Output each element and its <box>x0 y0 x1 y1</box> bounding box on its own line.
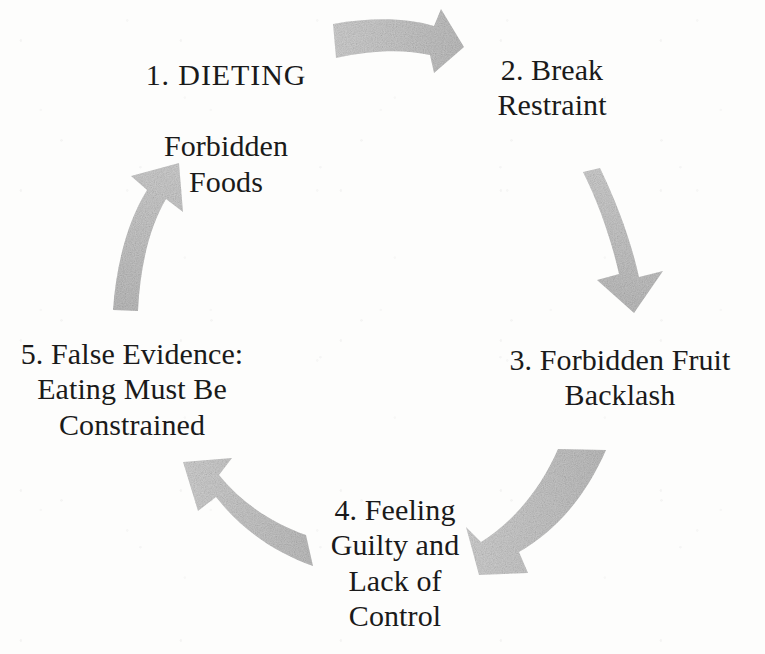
cycle-node-2-break-restraint: 2. Break Restraint <box>452 52 652 123</box>
cycle-node-5-false-evidence: 5. False Evidence: Eating Must Be Constr… <box>8 336 256 442</box>
cycle-node-1-heading: 1. DIETING <box>96 57 356 92</box>
arrow-2-to-3-icon <box>583 168 663 313</box>
cycle-node-4-feeling-guilty: 4. Feeling Guilty and Lack of Control <box>310 492 480 634</box>
cycle-node-1-body: Forbidden Foods <box>96 128 356 199</box>
cycle-node-3-forbidden-fruit-backlash: 3. Forbidden Fruit Backlash <box>484 342 756 413</box>
arrow-3-to-4-icon <box>466 449 606 575</box>
cycle-node-1-dieting: 1. DIETING Forbidden Foods <box>96 22 356 234</box>
arrow-4-to-5-icon <box>183 458 313 566</box>
diagram-canvas: 1. DIETING Forbidden Foods 2. Break Rest… <box>0 0 765 654</box>
